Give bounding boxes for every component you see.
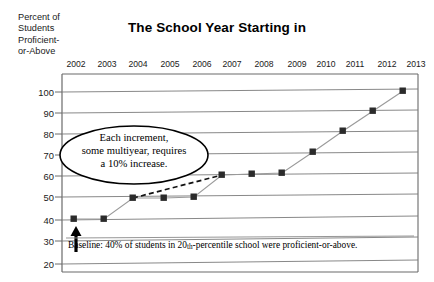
baseline-note-before: Baseline: 40% of students in 20 — [68, 240, 187, 250]
y-tick-marks — [55, 92, 62, 264]
baseline-note-ordinal: th — [187, 243, 193, 251]
callout-text: Each increment, some multiyear, requires… — [62, 131, 206, 171]
baseline-note: Baseline: 40% of students in 20th-percen… — [68, 240, 357, 250]
chart-figure: Percent of Students Proficient- or-Above… — [0, 0, 434, 282]
baseline-note-after: -percentile school were proficient-or-ab… — [193, 240, 358, 250]
